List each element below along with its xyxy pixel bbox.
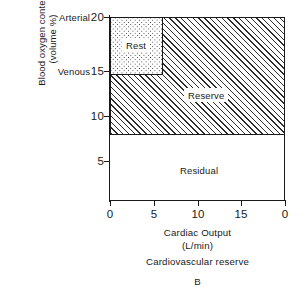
- y-tick-label-15: 15: [78, 65, 104, 77]
- x-tick-mark-20: [285, 200, 286, 206]
- region-label-residual: Residual: [176, 163, 222, 177]
- x-tick-mark-10: [198, 200, 199, 206]
- region-label-reserve: Reserve: [184, 88, 228, 102]
- y-tick-label-20: 20: [78, 11, 104, 23]
- x-axis-title-line-2: (L/min): [110, 240, 285, 251]
- y-tick-label-10: 10: [78, 110, 104, 122]
- y-tick-label-5: 5: [78, 155, 104, 167]
- x-tick-label-20: 0: [272, 208, 298, 220]
- x-axis-title-line-1: Cardiac Output: [110, 227, 285, 238]
- x-tick-label-10: 10: [185, 208, 211, 220]
- x-tick-label-0: 0: [97, 208, 123, 220]
- x-tick-mark-15: [241, 200, 242, 206]
- x-tick-mark-0: [110, 200, 111, 206]
- x-tick-label-15: 15: [228, 208, 254, 220]
- figure-cardiovascular-reserve: Blood oxygen content (volume %) Arterial…: [0, 0, 307, 290]
- figure-caption: Cardiovascular reserve: [96, 256, 299, 267]
- panel-letter: B: [96, 276, 299, 287]
- x-tick-mark-5: [154, 200, 155, 206]
- region-label-rest: Rest: [122, 38, 150, 52]
- x-tick-label-5: 5: [141, 208, 167, 220]
- y-axis-line: [109, 15, 110, 202]
